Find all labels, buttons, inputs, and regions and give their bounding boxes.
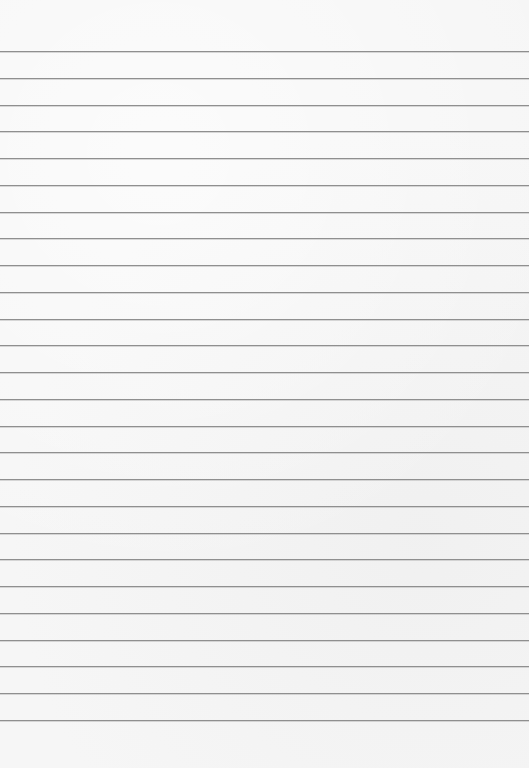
- ruled-line: [0, 559, 529, 560]
- ruled-line: [0, 640, 529, 641]
- ruled-line: [0, 265, 529, 266]
- lined-paper: [0, 0, 529, 768]
- ruled-line: [0, 479, 529, 480]
- ruled-line: [0, 693, 529, 694]
- ruled-line: [0, 238, 529, 239]
- ruled-line: [0, 319, 529, 320]
- ruled-line: [0, 51, 529, 52]
- ruled-line: [0, 185, 529, 186]
- ruled-line: [0, 158, 529, 159]
- ruled-line: [0, 345, 529, 346]
- ruled-line: [0, 613, 529, 614]
- ruled-line: [0, 78, 529, 79]
- ruled-line: [0, 399, 529, 400]
- ruled-line: [0, 506, 529, 507]
- ruled-line: [0, 292, 529, 293]
- ruled-line: [0, 452, 529, 453]
- ruled-line: [0, 105, 529, 106]
- ruled-line: [0, 720, 529, 721]
- ruled-line: [0, 586, 529, 587]
- ruled-line: [0, 533, 529, 534]
- ruled-line: [0, 426, 529, 427]
- ruled-line: [0, 212, 529, 213]
- ruled-line: [0, 131, 529, 132]
- ruled-line: [0, 372, 529, 373]
- ruled-line: [0, 666, 529, 667]
